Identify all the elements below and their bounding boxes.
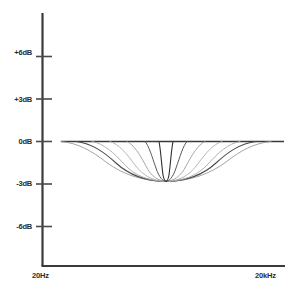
y-tick-label-plus3db: +3dB (0, 95, 32, 104)
y-tick-label-minus6db: -6dB (0, 222, 32, 231)
eq-response-figure: +6dB +3dB 0dB -3dB -6dB 20Hz 20kHz (0, 0, 296, 292)
x-tick-label-20khz: 20kHz (255, 271, 276, 280)
y-tick-label-plus6db: +6dB (0, 48, 32, 57)
y-tick-label-0db: 0dB (0, 137, 32, 146)
x-tick-label-20hz: 20Hz (32, 271, 49, 280)
y-tick-label-minus3db: -3dB (0, 179, 32, 188)
eq-response-plot (0, 0, 296, 292)
